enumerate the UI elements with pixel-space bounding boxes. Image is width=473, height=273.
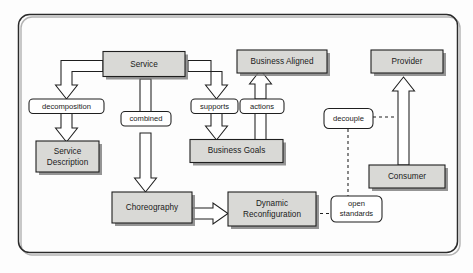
edge-service-decomposition [56,61,104,100]
node-business-aligned-label: Business Aligned [250,57,314,66]
edge-label-supports-text: supports [200,102,229,111]
edge-label-decouple-text: decouple [333,114,364,123]
edge-service-choreography [135,79,157,192]
edge-label-decomposition-text: decomposition [42,102,91,111]
node-consumer[interactable]: Consumer [369,165,448,191]
node-dynamic-reconfiguration-label-line2: Reconfiguration [243,210,301,219]
architecture-diagram: Service Business Aligned Provider Servic… [0,0,473,273]
edge-label-actions-text: actions [250,102,274,111]
block-arrow-provider [393,77,415,165]
edge-label-open-standards-line1: open [348,199,365,208]
node-choreography[interactable]: Choreography [112,192,195,226]
block-arrow-dynamic-reconfiguration [192,203,228,224]
block-arrow-service-description [56,113,78,142]
edge-decomposition-servicedescription [56,113,78,142]
block-arrow-decomposition [56,61,104,100]
edge-label-decomposition[interactable]: decomposition [29,99,104,114]
edge-label-combined[interactable]: combined [121,112,171,127]
node-service-description[interactable]: Service Description [36,141,102,175]
block-arrow-business-goals [206,113,228,140]
node-dynamic-reconfiguration[interactable]: Dynamic Reconfiguration [228,192,319,229]
node-provider[interactable]: Provider [371,50,446,76]
edge-label-decouple[interactable]: decouple [324,109,373,129]
block-arrow-supports [188,61,228,100]
edge-supports-businessgoals [206,113,228,140]
edge-service-supports [188,61,228,100]
edge-label-supports[interactable]: supports [191,99,238,114]
edge-consumer-provider [393,77,415,165]
edge-label-open-standards-line2: standards [340,209,374,218]
diagram-canvas: Service Business Aligned Provider Servic… [0,0,473,273]
node-service-description-box [36,141,99,172]
edge-label-actions[interactable]: actions [240,99,284,114]
block-arrow-choreography [135,133,157,192]
connector-service-combined [140,79,151,112]
edge-label-open-standards[interactable]: open standards [331,196,382,222]
node-business-aligned[interactable]: Business Aligned [237,50,330,76]
connector-goals-actions [255,113,266,140]
node-service[interactable]: Service [103,52,188,80]
edge-label-combined-text: combined [130,114,163,123]
node-provider-label: Provider [392,57,423,66]
node-business-goals-label: Business Goals [208,146,266,155]
node-business-goals[interactable]: Business Goals [190,140,286,166]
node-service-label: Service [130,60,158,69]
node-choreography-label: Choreography [126,203,179,212]
node-service-description-label-line1: Service [54,147,82,156]
node-dynamic-reconfiguration-label-line1: Dynamic [256,199,288,208]
edge-choreography-dynamicreconfiguration [192,203,228,224]
node-consumer-label: Consumer [388,172,426,181]
node-service-description-label-line2: Description [47,158,89,167]
